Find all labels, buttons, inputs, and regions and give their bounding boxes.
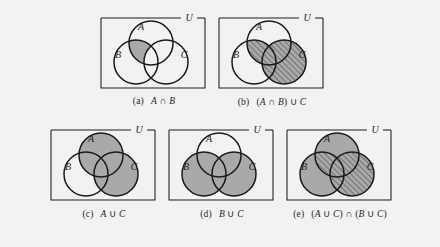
- panel-tag: (a): [133, 96, 144, 106]
- figure-row-bottom: UABC(c)A ∪ CUABC(d)B ∪ CUABC(e)(A ∪ C) ∩…: [45, 122, 399, 219]
- panel-expression: B ∪ C: [219, 209, 244, 219]
- venn-panel-b: UABC(b)(A ∩ B) ∪ C: [213, 10, 331, 107]
- panel-tag: (c): [82, 209, 93, 219]
- panel-caption: (d)B ∪ C: [200, 208, 244, 219]
- panel-tag: (b): [238, 97, 250, 107]
- set-label-a: A: [255, 21, 263, 32]
- venn-diagram-figure: UABC(a)A ∩ BUABC(b)(A ∩ B) ∪ C UABC(c)A …: [0, 0, 440, 247]
- venn-panel-a: UABC(a)A ∩ B: [95, 10, 213, 107]
- universe-label: U: [253, 124, 261, 135]
- panel-caption: (e)(A ∪ C) ∩ (B ∪ C): [293, 208, 387, 219]
- venn-panel-e: UABC(e)(A ∪ C) ∩ (B ∪ C): [281, 122, 399, 219]
- venn-graphic: UABC: [45, 122, 163, 207]
- universe-label: U: [135, 124, 143, 135]
- set-label-c: C: [131, 161, 138, 172]
- panel-caption: (a)A ∩ B: [133, 96, 175, 106]
- figure-row-top: UABC(a)A ∩ BUABC(b)(A ∩ B) ∪ C: [95, 10, 331, 107]
- universe-label: U: [185, 12, 193, 23]
- set-label-a: A: [87, 133, 95, 144]
- set-label-b: B: [115, 49, 121, 60]
- set-label-a: A: [323, 133, 331, 144]
- venn-panel-d: UABC(d)B ∪ C: [163, 122, 281, 219]
- venn-panel-c: UABC(c)A ∪ C: [45, 122, 163, 219]
- set-label-b: B: [301, 161, 307, 172]
- panel-expression: (A ∪ C) ∩ (B ∪ C): [311, 209, 387, 219]
- set-label-c: C: [181, 49, 188, 60]
- panel-tag: (d): [200, 209, 212, 219]
- set-label-c: C: [249, 161, 256, 172]
- set-label-a: A: [137, 21, 145, 32]
- set-label-c: C: [299, 49, 306, 60]
- set-label-c: C: [367, 161, 374, 172]
- venn-graphic: UABC: [95, 10, 213, 95]
- set-label-b: B: [183, 161, 189, 172]
- panel-expression: A ∪ C: [101, 209, 126, 219]
- set-label-b: B: [233, 49, 239, 60]
- venn-graphic: UABC: [281, 122, 399, 207]
- panel-tag: (e): [293, 209, 304, 219]
- panel-caption: (b)(A ∩ B) ∪ C: [238, 96, 307, 107]
- set-label-a: A: [205, 133, 213, 144]
- set-label-b: B: [65, 161, 71, 172]
- universe-label: U: [303, 12, 311, 23]
- universe-label: U: [371, 124, 379, 135]
- panel-expression: A ∩ B: [151, 96, 175, 106]
- venn-graphic: UABC: [213, 10, 331, 95]
- venn-graphic: UABC: [163, 122, 281, 207]
- panel-expression: (A ∩ B) ∪ C: [256, 97, 306, 107]
- panel-caption: (c)A ∪ C: [82, 208, 125, 219]
